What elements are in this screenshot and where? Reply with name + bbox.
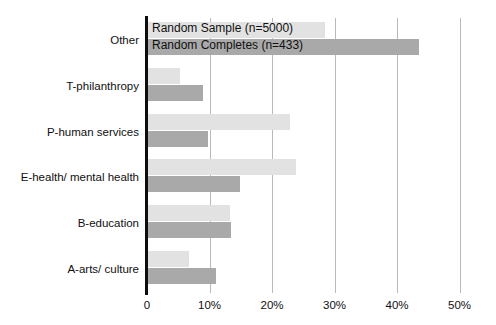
x-tick-label-20: 20% xyxy=(260,299,283,311)
bar-group-e-health-mental-health xyxy=(147,155,462,201)
category-label-t-philanthropy: T-philanthropy xyxy=(0,80,139,93)
y-axis-line xyxy=(145,16,148,295)
bar-sample-a-arts-culture xyxy=(147,251,189,267)
category-label-b-education: B-education xyxy=(0,217,139,230)
bar-completes-p-human-services xyxy=(147,131,208,147)
category-axis-labels: Other T-philanthropy P-human services E-… xyxy=(0,18,139,293)
category-label-a-arts-culture: A-arts/ culture xyxy=(0,263,139,276)
bar-group-t-philanthropy xyxy=(147,64,462,110)
x-tick-label-30: 30% xyxy=(323,299,346,311)
bar-completes-b-education xyxy=(147,222,231,238)
bar-completes-other xyxy=(147,39,419,55)
bar-sample-t-philanthropy xyxy=(147,68,180,84)
bar-sample-b-education xyxy=(147,205,230,221)
bar-chart: Other T-philanthropy P-human services E-… xyxy=(0,0,496,325)
bar-group-other xyxy=(147,18,462,64)
category-label-e-health-mental-health: E-health/ mental health xyxy=(0,171,139,184)
bar-sample-e-health-mental-health xyxy=(147,159,296,175)
bar-group-p-human-services xyxy=(147,110,462,156)
bar-completes-e-health-mental-health xyxy=(147,176,240,192)
x-axis-labels: 0 10% 20% 30% 40% 50% xyxy=(0,299,496,319)
bar-sample-other xyxy=(147,22,325,38)
bar-group-b-education xyxy=(147,201,462,247)
x-tick-label-50: 50% xyxy=(448,299,471,311)
category-label-other: Other xyxy=(0,34,139,47)
x-tick-label-0: 0 xyxy=(144,299,150,311)
x-tick-label-10: 10% xyxy=(198,299,221,311)
plot-area xyxy=(147,18,462,293)
bar-group-a-arts-culture xyxy=(147,247,462,293)
bar-completes-t-philanthropy xyxy=(147,85,203,101)
bar-sample-p-human-services xyxy=(147,114,290,130)
category-label-p-human-services: P-human services xyxy=(0,126,139,139)
bar-completes-a-arts-culture xyxy=(147,268,216,284)
x-tick-label-40: 40% xyxy=(385,299,408,311)
